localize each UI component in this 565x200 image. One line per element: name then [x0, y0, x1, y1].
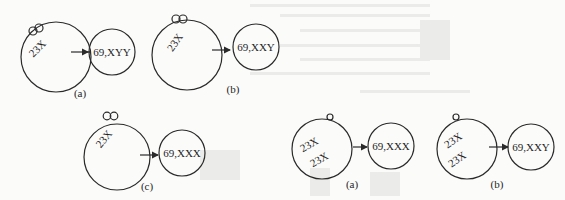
- egg-chromosome-label: 23X: [26, 37, 48, 59]
- panel-label: (a): [346, 178, 359, 191]
- egg-chromosome-label: 23X: [446, 149, 468, 170]
- figure-canvas: 23X 69,XYY (a) 23X 69,XXY (b) 23X 69,XXX…: [0, 0, 565, 200]
- panel-top-b: 23X 69,XXY (b): [152, 15, 279, 96]
- sperm-head-icon: [327, 114, 333, 120]
- panel-label: (c): [141, 180, 154, 193]
- zygote-karyotype: 69,XXY: [237, 41, 275, 53]
- zygote-karyotype: 69,XXY: [512, 141, 550, 153]
- egg-chromosome-label: 23X: [164, 31, 185, 53]
- panel-top-c: 23X 69,XXX (c): [84, 112, 205, 193]
- panel-label: (b): [227, 83, 240, 96]
- egg-chromosome-label: 23X: [442, 130, 464, 151]
- panel-bottom-a: 23X 23X 69,XXX (a): [292, 114, 414, 191]
- panel-bottom-b: 23X 23X 69,XXY (b): [437, 114, 554, 191]
- panel-label: (b): [491, 178, 504, 191]
- egg-circle: [437, 119, 497, 179]
- zygote-karyotype: 69,XYY: [93, 46, 131, 58]
- egg-chromosome-label: 23X: [308, 149, 330, 169]
- egg-circle: [152, 20, 222, 90]
- panel-top-a: 23X 69,XYY (a): [21, 22, 135, 100]
- zygote-karyotype: 69,XXX: [372, 140, 410, 152]
- egg-chromosome-label: 23X: [298, 134, 320, 154]
- panel-label: (a): [74, 87, 87, 100]
- sperm-head-icon: [453, 114, 459, 120]
- zygote-karyotype: 69,XXX: [163, 147, 201, 159]
